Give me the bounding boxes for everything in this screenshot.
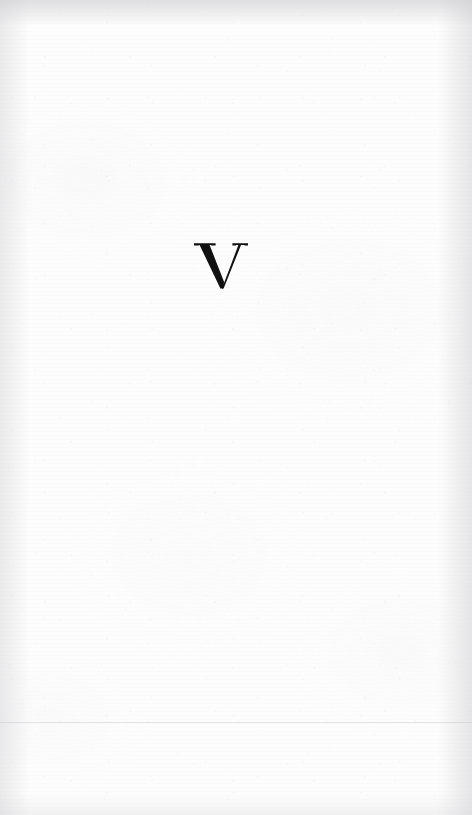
paper-background xyxy=(0,0,472,815)
scanned-page xyxy=(0,0,472,815)
